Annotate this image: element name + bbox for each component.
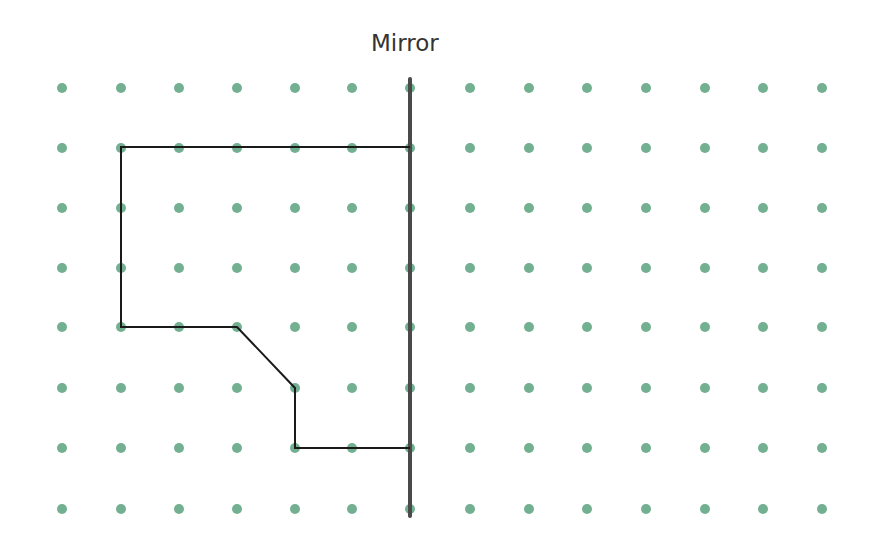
grid-dot (758, 203, 768, 213)
grid-dot (116, 443, 126, 453)
grid-dot (641, 83, 651, 93)
grid-dot (641, 143, 651, 153)
grid-dot (700, 203, 710, 213)
grid-dot (582, 83, 592, 93)
grid-dot (465, 383, 475, 393)
grid-dot (817, 263, 827, 273)
grid-dot (465, 504, 475, 514)
grid-dot (758, 322, 768, 332)
grid-dot (641, 263, 651, 273)
grid-dot (465, 203, 475, 213)
grid-dot (524, 143, 534, 153)
grid-dot (700, 383, 710, 393)
grid-dot (465, 263, 475, 273)
grid-dot (174, 383, 184, 393)
grid-dot (758, 83, 768, 93)
grid-dot (57, 383, 67, 393)
grid-dot (232, 203, 242, 213)
grid-dot (347, 322, 357, 332)
grid-dot (116, 83, 126, 93)
grid-dot (582, 322, 592, 332)
grid-dot (347, 263, 357, 273)
grid-dot (582, 143, 592, 153)
grid-dot (817, 322, 827, 332)
grid-dot (174, 203, 184, 213)
grid-dot (582, 443, 592, 453)
grid-dot (232, 443, 242, 453)
grid-dot (57, 263, 67, 273)
grid-dot (524, 383, 534, 393)
grid-dot (57, 83, 67, 93)
grid-dot (817, 443, 827, 453)
grid-dot (700, 143, 710, 153)
dot-grid-board (0, 0, 879, 551)
grid-dot (57, 203, 67, 213)
grid-dot (817, 143, 827, 153)
grid-dot (57, 322, 67, 332)
grid-dot (290, 203, 300, 213)
grid-dot (641, 383, 651, 393)
grid-dot (524, 504, 534, 514)
grid-dot (232, 263, 242, 273)
grid-dot (232, 383, 242, 393)
grid-dot (57, 143, 67, 153)
grid-dot (290, 263, 300, 273)
grid-dot (232, 504, 242, 514)
grid-dot (347, 203, 357, 213)
grid-dot (641, 322, 651, 332)
grid-dot (758, 263, 768, 273)
grid-dot (290, 83, 300, 93)
grid-dot (116, 383, 126, 393)
grid-dot (817, 504, 827, 514)
grid-dot (347, 383, 357, 393)
grid-dot (641, 203, 651, 213)
grid-dot (817, 203, 827, 213)
grid-dot (347, 83, 357, 93)
grid-dot (465, 322, 475, 332)
grid-dot (700, 83, 710, 93)
grid-dot (290, 504, 300, 514)
grid-dot (174, 443, 184, 453)
grid-dot (641, 504, 651, 514)
grid-dot (582, 203, 592, 213)
grid-dot (758, 383, 768, 393)
grid-dot (347, 504, 357, 514)
grid-dot (641, 443, 651, 453)
grid-dot (524, 443, 534, 453)
grid-dot (174, 263, 184, 273)
grid-dot (758, 504, 768, 514)
grid-dot (290, 322, 300, 332)
grid-dot (582, 383, 592, 393)
grid-dot (465, 443, 475, 453)
shape-outline (121, 147, 410, 448)
grid-dot (57, 504, 67, 514)
grid-dot (524, 322, 534, 332)
grid-dot (700, 504, 710, 514)
grid-dot (758, 443, 768, 453)
grid-dot (524, 203, 534, 213)
grid-dot (524, 263, 534, 273)
grid-dot (700, 263, 710, 273)
grid-dot (465, 143, 475, 153)
grid-dot (116, 504, 126, 514)
grid-dot (57, 443, 67, 453)
grid-dot (758, 143, 768, 153)
grid-dot (174, 83, 184, 93)
grid-dot (465, 83, 475, 93)
grid-dot (174, 504, 184, 514)
grid-dot (582, 504, 592, 514)
grid-dot (700, 443, 710, 453)
grid-dot (232, 83, 242, 93)
grid-dot (582, 263, 592, 273)
grid-dot (817, 83, 827, 93)
grid-dot (817, 383, 827, 393)
grid-dot (700, 322, 710, 332)
grid-dot (524, 83, 534, 93)
